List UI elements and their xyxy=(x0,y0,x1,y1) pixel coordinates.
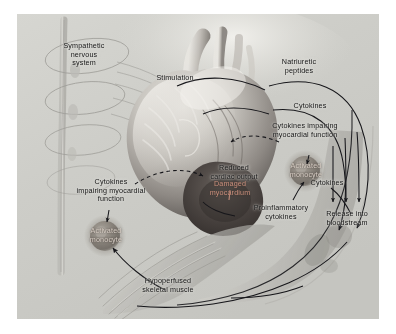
label-cytokines-right: Cytokines xyxy=(299,179,355,188)
label-release-into-bloodstream: Release into bloodstream xyxy=(313,210,379,227)
label-cytokines-impairing-myocardial-function-left: Cytokines impairing myocardial function xyxy=(49,178,173,204)
label-layer: Sympathetic nervous system Stimulation N… xyxy=(17,14,379,319)
label-natriuretic-peptides: Natriuretic peptides xyxy=(263,58,335,75)
label-cytokines-impairing-myocardial-function-right: Cytokines impairing myocardial function xyxy=(239,122,371,139)
medical-illustration-plate: Sympathetic nervous system Stimulation N… xyxy=(17,14,379,319)
label-sympathetic-nervous-system: Sympathetic nervous system xyxy=(43,42,125,68)
label-stimulation: Stimulation xyxy=(139,74,211,83)
label-hypoperfused-skeletal-muscle: Hypoperfused skeletal muscle xyxy=(121,277,215,294)
label-cytokines-top-right: Cytokines xyxy=(281,102,339,111)
label-activated-monocyte-left: Activated monocyte xyxy=(75,227,137,244)
label-damaged-myocardium: Damaged myocardium xyxy=(195,180,265,197)
label-activated-monocyte-center: Activated monocyte xyxy=(275,162,337,179)
figure-root: Sympathetic nervous system Stimulation N… xyxy=(0,0,396,334)
